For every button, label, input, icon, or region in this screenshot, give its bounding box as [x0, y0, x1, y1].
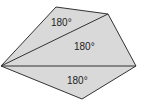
- triangle-1-angle-sum: 180°: [51, 17, 72, 28]
- pentagon-diagram: 180° 180° 180°: [0, 0, 153, 104]
- triangle-2-angle-sum: 180°: [74, 41, 95, 52]
- triangle-3-angle-sum: 180°: [67, 75, 88, 86]
